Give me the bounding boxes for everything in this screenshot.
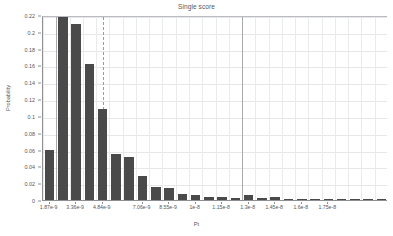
bar [164, 188, 174, 200]
y-tick-label: 0.2 [0, 30, 35, 36]
gridline [335, 17, 336, 200]
gridline [83, 17, 84, 200]
gridline [202, 17, 203, 200]
y-tick-mark [38, 184, 41, 185]
x-tick-label: 1.87e-9 [40, 204, 58, 210]
bar [138, 176, 148, 200]
y-tick-mark [38, 133, 41, 134]
y-tick-mark [38, 32, 41, 33]
x-tick-label: 7.06e-9 [133, 204, 151, 210]
y-tick-label: 0.12 [0, 97, 35, 103]
gridline [149, 17, 150, 200]
y-tick-mark [38, 201, 41, 202]
y-tick-mark [38, 150, 41, 151]
bar [257, 198, 267, 200]
bar [244, 195, 254, 200]
gridline [43, 17, 44, 200]
bar [98, 109, 108, 200]
gridline [109, 17, 110, 200]
x-tick-label: 4.84e-9 [93, 204, 111, 210]
bar [58, 16, 68, 200]
y-tick-label: 0.22 [0, 13, 35, 19]
gridline [255, 17, 256, 200]
chart-figure: Single score Probability 00.020.040.060.… [0, 0, 393, 236]
gridline [136, 17, 137, 200]
y-tick-mark [38, 100, 41, 101]
x-axis-label: Pt [0, 221, 393, 227]
bar [324, 199, 334, 200]
x-tick-label: 8.55e-9 [159, 204, 177, 210]
gridline [70, 17, 71, 200]
x-tick-label: 1.6e-8 [293, 204, 308, 210]
gridline [308, 17, 309, 200]
bar [377, 199, 387, 200]
bar [178, 194, 188, 200]
plot-area [42, 16, 387, 201]
gridline [162, 17, 163, 200]
y-tick-label: 0.16 [0, 63, 35, 69]
y-tick-label: 0 [0, 198, 35, 204]
chart-title: Single score [0, 3, 393, 10]
y-tick-mark [38, 16, 41, 17]
x-tick-label: 1.75e-8 [318, 204, 336, 210]
y-tick-mark [38, 49, 41, 50]
x-tick-label: 1.15e-8 [212, 204, 230, 210]
bar [310, 199, 320, 200]
y-tick-mark [38, 83, 41, 84]
gridline [295, 17, 296, 200]
bar [124, 157, 134, 200]
gridline [96, 17, 97, 200]
y-tick-label: 0.02 [0, 181, 35, 187]
gridline [269, 17, 270, 200]
x-tick-label: 1.3e-8 [240, 204, 255, 210]
y-tick-label: 0.18 [0, 47, 35, 53]
bar [217, 197, 227, 200]
y-tick-label: 0.08 [0, 131, 35, 137]
x-tick-label: 3.36e-9 [66, 204, 84, 210]
gridline [375, 17, 376, 200]
bar [270, 197, 280, 200]
x-axis-tick-labels: 1.87e-93.36e-94.84e-97.06e-98.55e-91e-81… [42, 202, 387, 220]
x-tick-label: 1.45e-8 [265, 204, 283, 210]
y-tick-label: 0.1 [0, 114, 35, 120]
y-tick-mark [38, 66, 41, 67]
bar [350, 199, 360, 200]
gridline [322, 17, 323, 200]
x-tick-label: 1e-8 [189, 204, 199, 210]
bar [231, 198, 241, 200]
bar [45, 150, 55, 200]
reference-line [242, 17, 243, 200]
y-tick-label: 0.14 [0, 80, 35, 86]
bar [284, 199, 294, 200]
gridline [282, 17, 283, 200]
gridline [216, 17, 217, 200]
y-tick-label: 0.04 [0, 164, 35, 170]
bar [191, 195, 201, 200]
bar [297, 199, 307, 200]
gridline [123, 17, 124, 200]
gridline [361, 17, 362, 200]
bar [204, 197, 214, 200]
y-tick-mark [38, 167, 41, 168]
y-axis-tick-labels: 00.020.040.060.080.10.120.140.160.180.20… [0, 16, 40, 201]
bar [337, 199, 347, 200]
gridline [189, 17, 190, 200]
gridline [176, 17, 177, 200]
gridline [229, 17, 230, 200]
bar [363, 199, 373, 200]
y-tick-label: 0.06 [0, 148, 35, 154]
bar [85, 64, 95, 200]
bar [151, 187, 161, 200]
bar [111, 154, 121, 200]
gridline [348, 17, 349, 200]
reference-line [56, 17, 57, 200]
bar [71, 24, 81, 200]
y-tick-mark [38, 116, 41, 117]
